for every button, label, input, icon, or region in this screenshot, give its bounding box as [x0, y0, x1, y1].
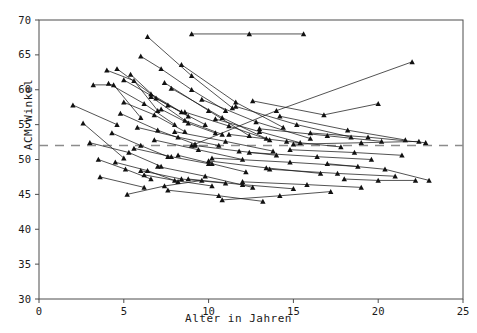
- data-point-marker: [226, 132, 231, 137]
- trajectory-line: [270, 169, 396, 176]
- data-point-marker: [175, 153, 180, 158]
- data-point-marker: [158, 107, 163, 112]
- data-point-marker: [135, 125, 140, 130]
- data-point-marker: [277, 114, 282, 119]
- data-point-marker: [189, 87, 194, 92]
- data-point-marker: [138, 54, 143, 59]
- data-point-marker: [203, 122, 208, 127]
- trajectory-line: [290, 150, 402, 156]
- data-point-marker: [179, 62, 184, 67]
- data-point-marker: [141, 101, 146, 106]
- data-point-marker: [158, 66, 163, 71]
- scatter-line-plot: 0510152025303540455055606570: [0, 0, 477, 333]
- trajectory-line: [243, 182, 362, 188]
- plot-frame: [39, 20, 463, 299]
- data-point-marker: [70, 102, 75, 107]
- data-point-marker: [97, 174, 102, 179]
- data-point-marker: [121, 77, 126, 82]
- trajectory-line: [73, 105, 117, 125]
- trajectory-line: [280, 116, 406, 140]
- data-point-marker: [109, 130, 114, 135]
- data-point-marker: [281, 125, 286, 130]
- y-tick-label: 40: [18, 223, 31, 235]
- data-point-marker: [162, 80, 167, 85]
- data-point-marker: [145, 34, 150, 39]
- data-point-marker: [131, 78, 136, 83]
- trajectory-line: [344, 179, 415, 180]
- x-axis-label: Alter in Jahren: [0, 312, 477, 325]
- y-tick-label: 70: [18, 14, 31, 26]
- data-point-marker: [409, 59, 414, 64]
- data-point-marker: [250, 98, 255, 103]
- data-point-marker: [148, 176, 153, 181]
- trajectory-line: [212, 158, 358, 166]
- trajectory-line: [93, 85, 140, 118]
- data-point-marker: [87, 140, 92, 145]
- trajectory-line: [181, 65, 283, 128]
- trajectory-line: [168, 190, 263, 201]
- data-point-marker: [131, 146, 136, 151]
- trajectory-line: [141, 56, 226, 110]
- data-point-marker: [172, 129, 177, 134]
- trajectory-line: [259, 129, 381, 142]
- trajectory-line: [148, 37, 233, 108]
- data-point-marker: [186, 176, 191, 181]
- y-tick-label: 30: [18, 293, 31, 305]
- data-point-marker: [123, 167, 128, 172]
- data-point-marker: [118, 111, 123, 116]
- data-point-marker: [96, 157, 101, 162]
- trajectory-line: [222, 192, 331, 200]
- trajectory-line: [293, 141, 419, 144]
- trajectory-line: [83, 123, 124, 158]
- data-point-marker: [152, 137, 157, 142]
- y-axis-label: ACM-Winkel: [22, 60, 35, 170]
- data-point-marker: [106, 81, 111, 86]
- data-point-marker: [114, 122, 119, 127]
- data-point-marker: [114, 66, 119, 71]
- y-tick-label: 45: [18, 188, 31, 200]
- figure-container: 0510152025303540455055606570 ACM-Winkel …: [0, 0, 477, 333]
- y-tick-label: 35: [18, 258, 31, 270]
- data-point-marker: [213, 116, 218, 121]
- data-point-marker: [121, 100, 126, 105]
- data-point-marker: [128, 72, 133, 77]
- data-point-marker: [104, 68, 109, 73]
- data-point-marker: [274, 108, 279, 113]
- trajectory-line: [90, 143, 161, 167]
- data-series-group: [70, 31, 432, 203]
- data-point-marker: [179, 109, 184, 114]
- data-point-marker: [376, 101, 381, 106]
- data-point-marker: [257, 126, 262, 131]
- data-point-marker: [325, 161, 330, 166]
- trajectory-line: [195, 146, 276, 156]
- data-point-marker: [80, 121, 85, 126]
- trajectory-line: [100, 177, 144, 187]
- data-point-marker: [113, 160, 118, 165]
